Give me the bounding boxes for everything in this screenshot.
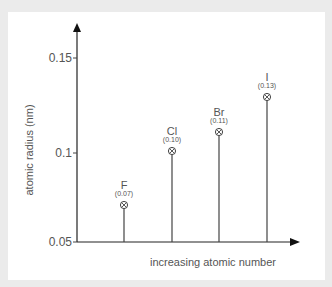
y-tick-label: 0.05 [49, 235, 73, 249]
data-point-cl: (0.10) Cl [163, 125, 181, 242]
y-axis-label: atomic radius (nm) [23, 104, 35, 195]
value-label: (0.10) [163, 136, 181, 144]
chart: 0.15 0.1 0.05 atomic radius (nm) increas… [0, 0, 332, 287]
data-point-br: (0.11) Br [210, 106, 228, 242]
y-tick-label: 0.15 [49, 51, 73, 65]
data-point-i: (0.13) I [258, 71, 276, 242]
element-label: Br [214, 106, 225, 118]
y-axis-arrow-icon [73, 23, 81, 32]
value-label: (0.13) [258, 82, 276, 90]
data-point-f: (0.07) F [115, 179, 133, 242]
element-label: I [265, 71, 268, 83]
element-label: Cl [167, 125, 177, 137]
value-label: (0.07) [115, 190, 133, 198]
x-axis-label: increasing atomic number [150, 256, 276, 268]
value-label: (0.11) [210, 117, 228, 125]
x-axis-arrow-icon [290, 238, 300, 246]
y-tick-label: 0.1 [55, 146, 72, 160]
element-label: F [121, 179, 128, 191]
